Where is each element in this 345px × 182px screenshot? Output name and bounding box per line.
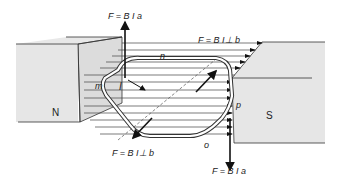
force-label-top: F = B I a	[108, 12, 142, 21]
corner-label-n: n	[160, 52, 165, 61]
south-pole-label: S	[266, 110, 273, 121]
north-pole-label: N	[52, 107, 59, 118]
magnetic-loop-diagram	[0, 0, 345, 182]
corner-label-o: o	[204, 141, 209, 150]
corner-label-p: p	[236, 101, 241, 110]
current-label: I	[119, 82, 122, 92]
force-label-lower-left: F = B I⊥ b	[112, 149, 154, 158]
force-label-bottom: F = B I a	[212, 167, 246, 176]
corner-label-m: m	[95, 82, 103, 91]
rotation-axis	[118, 60, 215, 140]
force-label-upper-right: F = B I⊥ b	[198, 36, 240, 45]
